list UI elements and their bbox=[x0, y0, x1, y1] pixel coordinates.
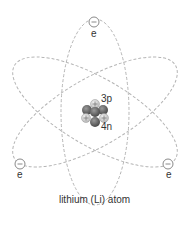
electron-top bbox=[89, 17, 99, 27]
neutron bbox=[90, 117, 100, 127]
diagram-caption: lithium (Li) atom bbox=[0, 194, 189, 205]
neutrons-label: 4n bbox=[101, 122, 112, 132]
protons-label: 3p bbox=[101, 94, 112, 104]
neutron bbox=[90, 107, 100, 117]
electron-bottom-left bbox=[15, 159, 25, 169]
electron-label-bottom-right: e bbox=[166, 170, 172, 180]
electron-bottom-right bbox=[163, 159, 173, 169]
electron-label-top: e bbox=[91, 29, 97, 39]
electron-label-bottom-left: e bbox=[17, 170, 23, 180]
